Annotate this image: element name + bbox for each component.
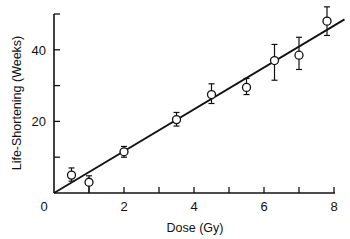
chart: 246820400 Dose (Gy) Life-Shortening (Wee…: [0, 0, 350, 239]
data-point: [85, 178, 93, 186]
data-point: [271, 57, 279, 65]
axes: [54, 14, 335, 193]
fit-line: [54, 19, 345, 193]
data-point: [323, 17, 331, 25]
ticks: [54, 14, 334, 193]
data-point: [173, 116, 181, 124]
data-points: [68, 7, 332, 193]
data-point: [208, 91, 216, 99]
y-tick-label: 40: [32, 43, 46, 58]
x-tick-label: 8: [330, 199, 337, 214]
tick-labels: 246820400: [32, 43, 338, 214]
data-point-group: [173, 112, 181, 126]
data-point-group: [85, 176, 93, 193]
data-point-group: [68, 168, 76, 181]
data-point: [295, 51, 303, 59]
x-tick-label: 2: [120, 199, 127, 214]
data-point-group: [120, 146, 128, 157]
data-point-group: [295, 37, 303, 69]
y-tick-label: 20: [32, 114, 46, 129]
x-tick-label: 6: [260, 199, 267, 214]
data-point-group: [243, 78, 251, 94]
y-axis-label: Life-Shortening (Weeks): [10, 36, 24, 171]
data-point: [243, 83, 251, 91]
data-point: [68, 171, 76, 179]
data-point: [120, 148, 128, 156]
fit-line-group: [54, 19, 345, 193]
origin-label: 0: [40, 199, 47, 214]
x-tick-label: 4: [190, 199, 197, 214]
x-axis-label: Dose (Gy): [167, 221, 224, 235]
data-point-group: [271, 44, 279, 80]
